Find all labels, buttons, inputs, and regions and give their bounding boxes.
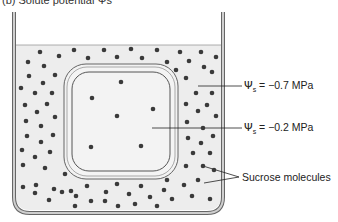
beaker-diagram: [0, 0, 338, 222]
psi-symbol: Ψ: [244, 121, 253, 134]
outer-solute-potential-label: Ψs = −0.7 MPa: [244, 79, 313, 93]
sucrose-molecules-label: Sucrose molecules: [242, 171, 331, 183]
cell-membrane: [72, 72, 170, 171]
subscript: s: [253, 128, 257, 135]
inner-solute-potential-label: Ψs = −0.2 MPa: [244, 121, 313, 135]
value: = −0.7 MPa: [259, 79, 313, 91]
subscript: s: [253, 86, 257, 93]
value: = −0.2 MPa: [259, 121, 313, 133]
psi-symbol: Ψ: [244, 79, 253, 92]
